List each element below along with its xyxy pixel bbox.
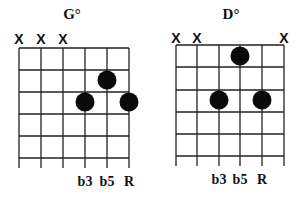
finger-dot — [76, 93, 95, 112]
mute-marker: X — [58, 31, 68, 47]
chord-diagram-d-dim: D° X X X b3 b5 R — [171, 6, 289, 187]
chord-title: D° — [223, 6, 240, 22]
interval-label: R — [124, 174, 135, 189]
mute-marker: X — [14, 31, 24, 47]
interval-label: b5 — [100, 174, 115, 189]
finger-dot — [253, 91, 272, 110]
chord-title: G° — [63, 6, 81, 22]
chord-diagram-g-dim: G° X X X b3 b5 R — [14, 6, 138, 189]
interval-label: b3 — [212, 172, 227, 187]
mute-marker: X — [171, 30, 181, 46]
fretboard-grid — [19, 48, 129, 168]
finger-dot — [120, 93, 139, 112]
finger-dot — [98, 71, 117, 90]
mute-marker: X — [36, 31, 46, 47]
chord-diagrams: G° X X X b3 b5 R D° X X X — [0, 0, 302, 197]
mute-marker: X — [192, 30, 202, 46]
interval-label: R — [257, 172, 268, 187]
finger-dot — [210, 91, 229, 110]
interval-label: b5 — [233, 172, 248, 187]
finger-dot — [231, 47, 250, 66]
interval-label: b3 — [78, 174, 93, 189]
mute-marker: X — [279, 30, 289, 46]
